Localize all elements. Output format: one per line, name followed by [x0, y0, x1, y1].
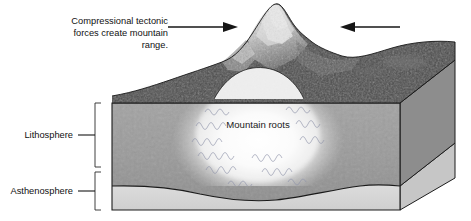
left-compression-arrow: [168, 22, 238, 32]
compression-callout: Compressional tectonic forces create mou…: [71, 16, 168, 50]
mountain-roots-label: Mountain roots: [226, 119, 290, 130]
block-diagram: Compressional tectonic forces create mou…: [0, 0, 471, 221]
right-compression-arrow: [340, 22, 400, 32]
callout-line-3: range.: [142, 40, 168, 50]
lithosphere-bracket: [78, 103, 101, 167]
geology-diagram-figure: Compressional tectonic forces create mou…: [0, 0, 471, 221]
callout-line-2: forces create mountain: [73, 28, 168, 38]
asthenosphere-bracket: [78, 172, 101, 210]
callout-line-1: Compressional tectonic: [71, 16, 168, 26]
asthenosphere-label: Asthenosphere: [10, 186, 73, 196]
lithosphere-label: Lithosphere: [24, 130, 73, 140]
